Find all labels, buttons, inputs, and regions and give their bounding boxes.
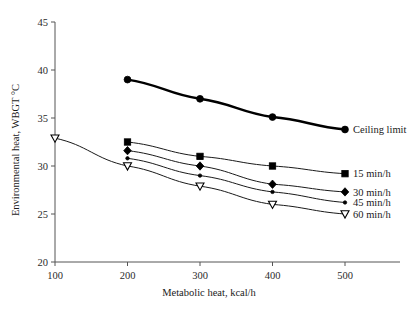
marker-0-1 [197,95,204,102]
series-label-1: 15 min/h [353,168,391,179]
x-tick-label: 300 [192,270,208,281]
series-label-2: 30 min/h [353,187,391,198]
y-tick-label: 25 [38,209,49,220]
x-axis-title: Metabolic heat, kcal/h [162,287,256,298]
chart-container: 202530354045100200300400500 Ceiling limi… [0,0,418,313]
marker-2-2 [269,180,277,188]
y-tick-label: 20 [38,257,49,268]
y-tick-label: 30 [38,161,49,172]
y-tick-label: 40 [38,65,49,76]
series-labels: Ceiling limit15 min/h30 min/h45 min/h60 … [353,124,406,219]
series-line-2 [128,151,346,192]
marker-3-3 [343,201,346,204]
x-tick-label: 200 [120,270,136,281]
series-line-0 [128,80,346,130]
marker-3-2 [271,190,274,193]
x-tick-label: 500 [337,270,353,281]
series-label-4: 60 min/h [353,209,391,220]
series-label-0: Ceiling limit [353,124,406,135]
marker-1-0 [124,139,130,145]
marker-3-0 [126,157,129,160]
marker-3-1 [198,174,201,177]
chart-plot: 202530354045100200300400500 Ceiling limi… [0,0,418,313]
marker-1-1 [197,153,203,159]
marker-2-0 [124,146,132,154]
marker-0-0 [124,76,131,83]
axis-ticks [51,22,345,266]
y-tick-label: 35 [38,113,49,124]
marker-1-2 [269,163,275,169]
marker-4-4 [341,211,349,218]
marker-1-3 [342,170,348,176]
y-axis-title: Environmental heat, WBGT °C [10,84,21,216]
y-tick-label: 45 [38,17,49,28]
marker-0-2 [269,114,276,121]
series-label-3: 45 min/h [353,197,391,208]
series-line-3 [128,158,346,202]
marker-0-3 [342,126,349,133]
marker-2-1 [196,162,204,170]
series-line-1 [128,142,346,174]
x-tick-label: 100 [47,270,63,281]
axes [55,22,400,262]
marker-2-3 [341,188,349,196]
x-tick-label: 400 [265,270,281,281]
